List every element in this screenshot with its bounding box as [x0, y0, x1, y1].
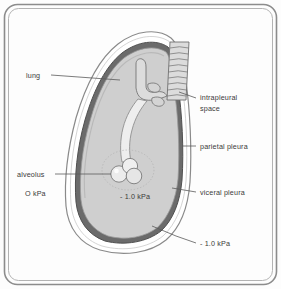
label-intrapleural-space-line1: intrapleural: [200, 93, 238, 102]
label-alveolus-pressure: O kPa: [25, 189, 46, 198]
hilar-vessel-upper: [148, 83, 160, 92]
label-viceral-pleura: viceral pleura: [200, 188, 245, 197]
label-lung: lung: [26, 71, 40, 80]
label-alveolus: alveolus: [17, 170, 45, 179]
label-lung-pressure: - 1.0 kPa: [120, 192, 150, 201]
label-pleural-pressure: - 1.0 kPa: [200, 239, 230, 248]
alveolus-highlight: [114, 169, 119, 174]
hilar-vessel-lower: [152, 97, 164, 106]
label-parietal-pleura: parietal pleura: [200, 142, 248, 151]
alveolus-sac-right: [126, 168, 142, 184]
lung-pleura-diagram: lung intrapleural space parietal pleura …: [0, 0, 281, 289]
label-intrapleural-space-line2: space: [200, 104, 220, 113]
